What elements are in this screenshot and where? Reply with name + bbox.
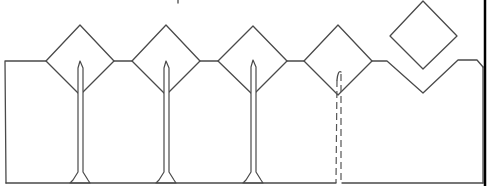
- post-3: [243, 60, 263, 183]
- outline-top-edge: [5, 61, 46, 183]
- post-1: [70, 61, 90, 183]
- diamond-5-detached: [390, 1, 457, 69]
- post-2: [156, 61, 176, 183]
- diamond-4: [304, 25, 372, 95]
- post-4-dashed-left: [336, 80, 337, 183]
- fence-diagram: [0, 0, 487, 186]
